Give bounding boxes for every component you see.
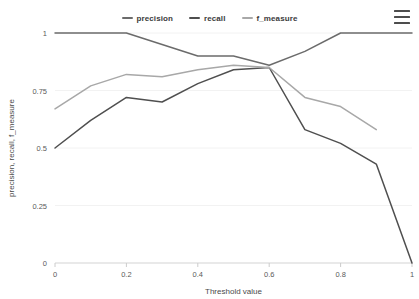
plot-svg: 00.20.40.60.8100.250.50.751 Threshold va… xyxy=(0,0,419,299)
x-axis-title: Threshold value xyxy=(205,287,262,296)
x-tick-label: 0.2 xyxy=(121,270,131,279)
hamburger-bar-bottom xyxy=(394,22,410,24)
legend-item-recall[interactable]: recall xyxy=(189,14,226,23)
legend-item-f-measure[interactable]: f_measure xyxy=(242,14,298,23)
hamburger-menu-icon[interactable] xyxy=(393,9,411,25)
hamburger-bar-middle xyxy=(394,16,410,18)
series-line-f-measure xyxy=(55,65,376,129)
grid-lines xyxy=(55,33,412,263)
plot-area: 00.20.40.60.8100.250.50.751 Threshold va… xyxy=(0,0,419,299)
series-line-recall xyxy=(55,68,412,264)
x-tick-label: 0.4 xyxy=(193,270,203,279)
legend-label-f-measure: f_measure xyxy=(257,14,298,23)
legend-label-recall: recall xyxy=(204,14,226,23)
legend-item-precision[interactable]: precision xyxy=(122,14,173,23)
series-line-precision xyxy=(55,33,412,65)
legend-swatch-recall xyxy=(189,17,200,19)
line-chart-widget: 00.20.40.60.8100.250.50.751 Threshold va… xyxy=(0,0,419,299)
x-tick-label: 0.6 xyxy=(264,270,274,279)
y-axis-title: precision, recall, f_measure xyxy=(7,99,16,197)
legend-label-precision: precision xyxy=(137,14,173,23)
legend-swatch-f-measure xyxy=(242,17,253,19)
legend-swatch-precision xyxy=(122,17,133,19)
y-tick-label: 0.5 xyxy=(37,144,47,153)
hamburger-bar-top xyxy=(394,10,410,12)
x-tick-label: 0 xyxy=(53,270,57,279)
x-tick-label: 0.8 xyxy=(335,270,345,279)
y-tick-label: 0 xyxy=(43,259,47,268)
y-tick-label: 0.25 xyxy=(32,202,47,211)
x-tick-label: 1 xyxy=(410,270,414,279)
y-tick-label: 1 xyxy=(43,29,47,38)
y-tick-label: 0.75 xyxy=(32,87,47,96)
